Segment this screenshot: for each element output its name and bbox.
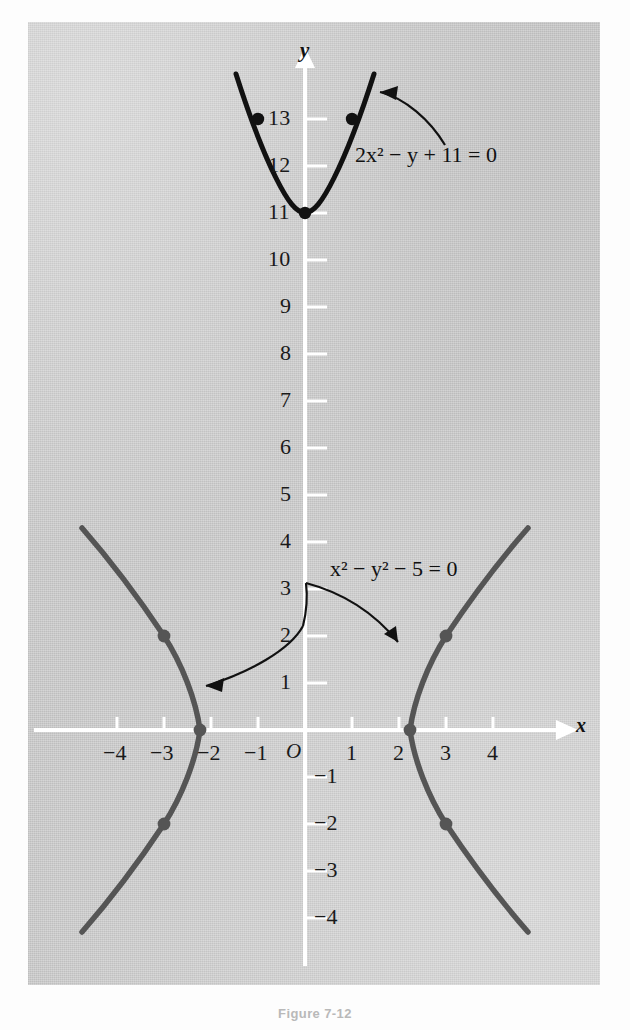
y-axis-label: y xyxy=(300,38,309,63)
x-tick-label--4: −4 xyxy=(103,740,127,766)
y-tick-label-6: 6 xyxy=(280,434,291,460)
figure-container: y x −4 −3 −2 −1 O 1 2 3 4 13 12 11 10 9 … xyxy=(0,0,630,1030)
axis-lines xyxy=(34,47,578,966)
figure-caption: Figure 7-12 xyxy=(0,1006,630,1030)
y-tick-label-2: 2 xyxy=(280,622,291,648)
y-tick-label-10: 10 xyxy=(268,246,290,272)
parabola-point-right xyxy=(346,113,358,125)
origin-label: O xyxy=(286,739,301,764)
y-tick-label--2: −2 xyxy=(314,810,338,836)
x-axis-label: x xyxy=(576,714,586,737)
y-tick-label-3: 3 xyxy=(280,575,291,601)
y-tick-label-9: 9 xyxy=(280,293,291,319)
y-tick-label-1: 1 xyxy=(280,669,291,695)
y-tick-label-4: 4 xyxy=(280,528,291,554)
hyperbola-point-right-lower xyxy=(440,818,453,831)
x-tick-label--1: −1 xyxy=(244,740,268,766)
y-tick-label-11: 11 xyxy=(268,199,290,225)
parabola-point-left xyxy=(252,113,264,125)
y-tick-label--3: −3 xyxy=(314,857,338,883)
hyperbola-equation-label: x² − y² − 5 = 0 xyxy=(330,556,457,582)
hyperbola-point-right-upper xyxy=(440,630,453,643)
y-axis-ticks xyxy=(305,119,327,918)
x-tick-label-3: 3 xyxy=(440,740,451,766)
hyperbola-leader-arrows xyxy=(206,583,398,692)
parabola-equation-text: 2x² − y + 11 = 0 xyxy=(355,142,497,167)
parabola-vertex-point xyxy=(299,207,311,219)
y-tick-label-13: 13 xyxy=(268,105,290,131)
parabola-leader-arrow xyxy=(380,86,445,145)
y-tick-label-5: 5 xyxy=(280,481,291,507)
y-tick-label-12: 12 xyxy=(268,152,290,178)
hyperbola-vertex-left xyxy=(194,724,207,737)
parabola-equation-label: 2x² − y + 11 = 0 xyxy=(355,142,497,168)
x-tick-label-4: 4 xyxy=(487,740,498,766)
x-tick-label-1: 1 xyxy=(346,740,357,766)
y-tick-label--4: −4 xyxy=(314,904,338,930)
y-tick-label-8: 8 xyxy=(280,340,291,366)
hyperbola-vertex-right xyxy=(404,724,417,737)
x-tick-label--2: −2 xyxy=(197,740,221,766)
x-tick-label--3: −3 xyxy=(150,740,174,766)
x-tick-label-2: 2 xyxy=(393,740,404,766)
y-tick-label-7: 7 xyxy=(280,387,291,413)
hyperbola-point-left-upper xyxy=(158,630,171,643)
y-tick-label--1: −1 xyxy=(314,763,338,789)
hyperbola-point-left-lower xyxy=(158,818,171,831)
hyperbola-equation-text: x² − y² − 5 = 0 xyxy=(330,556,457,581)
